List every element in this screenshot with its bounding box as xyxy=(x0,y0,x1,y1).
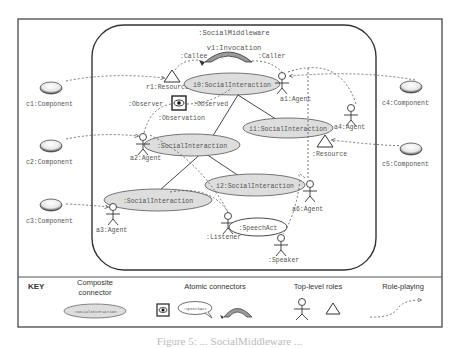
key-agent-icon xyxy=(294,299,310,321)
agent-a4-label: a4:Agent xyxy=(334,124,365,131)
component-c3-label: c3:Component xyxy=(26,218,73,225)
key-composite-header-2: connector xyxy=(79,288,112,297)
agent-a2-icon xyxy=(136,134,150,156)
key-title: KEY xyxy=(28,282,45,291)
observer-label: :Observer xyxy=(128,101,163,108)
figure-caption: Figure 5: ... SocialMiddleware ... xyxy=(0,335,459,347)
svg-text::SocialInteraction: :SocialInteraction xyxy=(73,310,117,314)
key-roleplaying-header: Role-playing xyxy=(382,282,424,291)
speaker-label: :Speaker xyxy=(268,257,299,264)
component-c1-label: c1:Component xyxy=(26,101,73,108)
svg-text:i1:SocialInteraction: i1:SocialInteraction xyxy=(249,126,327,133)
svg-text:i2:SocialInteraction: i2:SocialInteraction xyxy=(216,183,294,190)
svg-text::SpeechAct: :SpeechAct xyxy=(183,307,207,311)
component-c4[interactable] xyxy=(400,81,422,93)
component-c1[interactable] xyxy=(40,82,62,94)
invocation-label: v1:Invocation xyxy=(207,44,262,52)
component-c5[interactable] xyxy=(400,143,422,155)
key-resource-triangle-icon xyxy=(326,303,340,314)
resource2-label: :Resource xyxy=(312,151,347,158)
agent-a6-label: a6:Agent xyxy=(292,206,323,213)
component-c2-label: c2:Component xyxy=(26,159,73,166)
svg-text::SocialInteraction: :SocialInteraction xyxy=(123,198,193,205)
component-c5-label: c5:Component xyxy=(382,161,429,168)
speechact-label: :SpeechAct xyxy=(238,225,277,232)
key-observation-eye-icon xyxy=(157,304,169,316)
agent-a3-label: a3:Agent xyxy=(96,227,127,234)
agent-a1-icon xyxy=(275,73,289,95)
key-invocation-icon xyxy=(220,309,252,320)
component-c2[interactable] xyxy=(40,140,62,152)
listener-label: :Listener xyxy=(206,234,241,241)
resource-triangle-icon xyxy=(164,70,180,82)
svg-text::SocialInteraction: :SocialInteraction xyxy=(157,143,227,150)
key-composite-header-1: Composite xyxy=(77,278,113,287)
component-c3[interactable] xyxy=(40,199,62,211)
callee-label: :Callee xyxy=(180,53,207,60)
key-roleplaying-arrow xyxy=(370,300,421,317)
observation-eye-icon xyxy=(172,96,186,110)
key-atomic-header: Atomic connectors xyxy=(184,282,246,291)
agent-a4-icon xyxy=(344,105,358,127)
agent-a1-label: a1:Agent xyxy=(280,96,311,103)
middleware-label: :SocialMiddleware xyxy=(198,29,269,37)
agent-a2-label: a2:Agent xyxy=(130,155,161,162)
observation-label: :Observation xyxy=(158,115,205,122)
key-roles-header: Top-level roles xyxy=(294,282,343,291)
speaker-icon xyxy=(274,235,288,257)
caller-label: :Caller xyxy=(258,53,285,60)
svg-text:i0:SocialInteraction: i0:SocialInteraction xyxy=(193,82,271,89)
component-c4-label: c4:Component xyxy=(382,100,429,107)
observed-label: :Observed xyxy=(193,101,228,108)
resource2-triangle-icon xyxy=(317,135,333,147)
resource1-label: r1:Resource xyxy=(146,84,189,91)
